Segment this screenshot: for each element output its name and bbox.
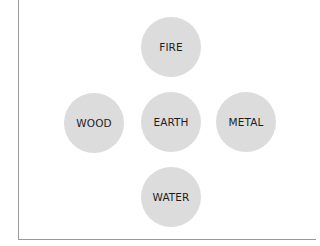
element-metal-label: METAL (229, 116, 264, 128)
element-wood: WOOD (64, 93, 124, 153)
element-fire: FIRE (141, 17, 201, 77)
element-wood-label: WOOD (76, 117, 111, 129)
element-water-label: WATER (152, 191, 189, 203)
element-earth: EARTH (141, 92, 201, 152)
element-earth-label: EARTH (153, 116, 188, 128)
element-fire-label: FIRE (159, 41, 182, 53)
element-metal: METAL (216, 92, 276, 152)
element-water: WATER (141, 167, 201, 227)
